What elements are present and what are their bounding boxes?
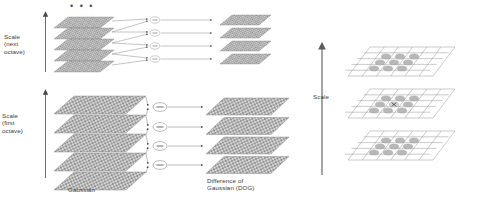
right-panel-group	[322, 45, 455, 175]
dog-plane	[206, 137, 289, 154]
grid-plane-top	[345, 47, 455, 76]
minus-operator-icon	[153, 123, 167, 132]
minus-operator-icon	[150, 17, 160, 23]
gaussian-plane	[54, 115, 146, 133]
gaussian-plane	[54, 61, 114, 72]
operators-first-octave	[153, 103, 167, 170]
gaussian-plane	[54, 39, 114, 50]
gaussian-plane	[54, 134, 146, 152]
gaussian-plane	[54, 28, 114, 39]
minus-operator-icon	[150, 43, 160, 49]
minus-operator-icon	[150, 56, 160, 62]
sift-scale-space-figure	[0, 0, 479, 204]
dog-plane	[220, 54, 271, 64]
gaussian-planes-next-octave	[54, 17, 114, 72]
dog-output-arrows-next-octave	[161, 20, 212, 59]
dog-plane	[206, 98, 289, 115]
dog-plane	[206, 118, 289, 135]
dog-plane	[220, 28, 271, 38]
operators-next-octave	[150, 17, 160, 62]
scale-first-octave-label: Scale (first octave)	[2, 112, 36, 134]
difference-of-gaussian-label: Difference of Gaussian (DOG)	[207, 177, 281, 192]
dog-output-arrows-first-octave	[168, 107, 203, 165]
dog-planes-next-octave	[220, 15, 271, 64]
first-octave-group	[46, 92, 290, 190]
gaussian-plane	[54, 153, 146, 171]
ellipsis-label: • • •	[70, 3, 100, 10]
gaussian-plane	[54, 50, 114, 61]
dog-plane	[220, 15, 271, 25]
scale-next-octave-label: Scale (next octave)	[4, 33, 38, 55]
minus-operator-icon	[153, 103, 167, 112]
gaussian-planes-first-octave	[54, 96, 146, 190]
scale-label-right-panel: Scale	[313, 93, 347, 100]
minus-operator-icon	[153, 142, 167, 151]
gaussian-label: Gaussian	[68, 186, 128, 193]
gaussian-plane	[54, 96, 146, 114]
minus-operator-icon	[153, 161, 167, 170]
grid-plane-bottom	[345, 131, 455, 160]
dog-planes-first-octave	[206, 98, 289, 174]
minus-operator-icon	[150, 30, 160, 36]
difference-connectors-next-octave	[112, 19, 148, 65]
gaussian-plane	[54, 17, 114, 28]
dog-plane	[206, 157, 289, 174]
dog-plane	[220, 41, 271, 51]
next-octave-group	[46, 14, 272, 72]
grid-plane-middle	[345, 89, 455, 118]
difference-connectors-first-octave	[146, 97, 148, 173]
